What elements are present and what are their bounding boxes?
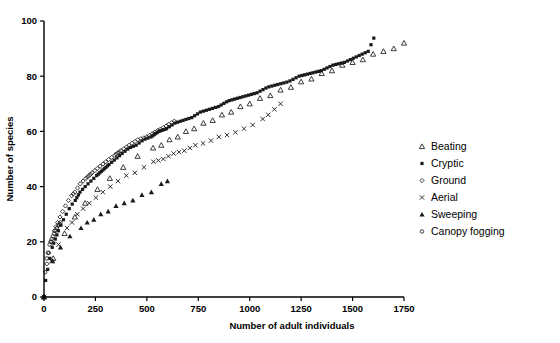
legend-label: Cryptic	[431, 157, 464, 169]
legend-label: Beating	[431, 140, 467, 152]
legend-label: Sweeping	[431, 208, 477, 220]
legend-item-sweeping[interactable]: Sweeping	[419, 208, 477, 220]
x-tick-label: 500	[139, 303, 155, 314]
filled-square-icon	[420, 162, 423, 165]
y-axis-title: Number of species	[4, 117, 15, 202]
series-ground	[42, 119, 177, 299]
legend-item-beating[interactable]: Beating	[419, 140, 466, 152]
cross-icon	[420, 195, 424, 199]
x-tick-label: 1750	[393, 303, 414, 314]
open-circle-icon	[420, 230, 423, 233]
series-cryptic	[42, 36, 375, 298]
chart-canvas: 02040608010002505007501000125015001750 B…	[0, 0, 560, 343]
y-tick-label: 60	[26, 126, 37, 137]
x-tick-label: 750	[190, 303, 206, 314]
x-axis-title: Number of adult individuals	[229, 320, 354, 331]
plot-area	[41, 36, 406, 299]
figure-caption-fragment	[8, 334, 552, 342]
axes: 02040608010002505007501000125015001750	[21, 15, 414, 314]
legend-item-canopy-fogging[interactable]: Canopy fogging	[420, 225, 504, 237]
y-tick-label: 0	[32, 291, 37, 302]
y-tick-label: 80	[26, 71, 37, 82]
chart-legend: BeatingCrypticGroundAerialSweepingCanopy…	[419, 140, 504, 237]
x-tick-label: 1500	[342, 303, 363, 314]
legend-label: Ground	[431, 174, 466, 186]
filled-triangle-icon	[419, 212, 424, 217]
y-tick-label: 100	[21, 15, 37, 26]
x-tick-label: 1250	[291, 303, 312, 314]
rarefaction-curve-figure: 02040608010002505007501000125015001750 B…	[0, 0, 560, 343]
legend-item-cryptic[interactable]: Cryptic	[420, 157, 463, 169]
open-diamond-icon	[420, 178, 424, 182]
legend-item-ground[interactable]: Ground	[420, 174, 466, 186]
legend-item-aerial[interactable]: Aerial	[420, 191, 458, 203]
open-triangle-icon	[419, 144, 424, 149]
y-tick-label: 20	[26, 236, 37, 247]
series-sweeping	[41, 178, 170, 299]
y-tick-label: 40	[26, 181, 37, 192]
legend-label: Canopy fogging	[431, 225, 505, 237]
x-tick-label: 250	[87, 303, 103, 314]
x-tick-label: 0	[41, 303, 46, 314]
x-tick-label: 1000	[239, 303, 260, 314]
legend-label: Aerial	[431, 191, 458, 203]
